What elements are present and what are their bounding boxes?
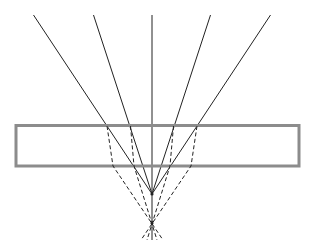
glass-slab — [16, 126, 299, 167]
shifted-focus-point — [150, 221, 153, 224]
incident-rays — [34, 15, 271, 240]
original-focus-point — [150, 192, 153, 195]
diagram-canvas — [0, 0, 313, 248]
ray-diagram — [0, 0, 313, 248]
